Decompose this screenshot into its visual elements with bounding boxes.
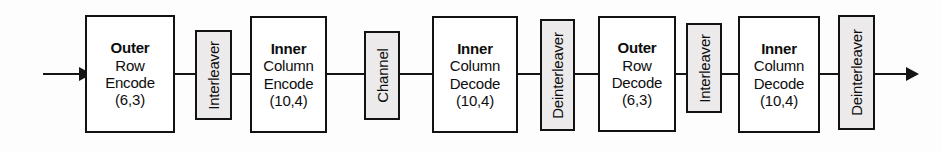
block-title: Inner — [271, 40, 307, 57]
wire-output — [875, 73, 909, 75]
block-label: Interleaver — [696, 34, 713, 103]
wire-1 — [174, 73, 197, 75]
block-code-params: (10,4) — [456, 92, 494, 109]
output-arrow-icon — [906, 67, 919, 81]
block-outer-row-decode[interactable]: Outer Row Decode (6,3) — [598, 16, 676, 132]
wire-5 — [517, 73, 541, 75]
block-line-3: Decode — [612, 74, 663, 91]
block-line-3: Encode — [105, 74, 155, 91]
block-code-params: (10,4) — [760, 92, 798, 109]
block-line-2: Column — [754, 57, 805, 74]
block-label: Deinterleaver — [549, 32, 566, 119]
wire-9 — [819, 73, 839, 75]
block-title: Outer — [617, 39, 656, 56]
wire-8 — [721, 73, 739, 75]
wire-2 — [231, 73, 252, 75]
block-line-2: Row — [622, 57, 651, 74]
block-line-3: Encode — [264, 75, 314, 92]
block-inner-column-encode[interactable]: Inner Column Encode (10,4) — [250, 16, 327, 133]
block-label: Interleaver — [205, 41, 222, 110]
block-code-params: (6,3) — [622, 91, 652, 108]
block-line-2: Column — [263, 57, 314, 74]
block-label: Channel — [374, 48, 391, 102]
block-interleaver-1[interactable]: Interleaver — [195, 30, 232, 120]
wire-6 — [574, 73, 599, 75]
wire-4 — [399, 73, 433, 75]
block-channel[interactable]: Channel — [364, 31, 400, 120]
block-deinterleaver-2[interactable]: Deinterleaver — [838, 15, 875, 130]
block-line-2: Column — [450, 57, 501, 74]
block-line-3: Decode — [450, 75, 501, 92]
block-inner-column-decode-1[interactable]: Inner Column Decode (10,4) — [432, 16, 518, 133]
block-inner-column-decode-2[interactable]: Inner Column Decode (10,4) — [738, 16, 820, 133]
block-code-params: (6,3) — [115, 91, 145, 108]
block-line-2: Row — [115, 57, 144, 74]
block-interleaver-2[interactable]: Interleaver — [686, 23, 722, 113]
block-code-params: (10,4) — [270, 92, 308, 109]
block-title: Inner — [457, 40, 493, 57]
block-title: Outer — [110, 39, 149, 56]
block-outer-row-encode[interactable]: Outer Row Encode (6,3) — [85, 15, 175, 133]
block-label: Deinterleaver — [848, 29, 865, 116]
block-diagram: Outer Row Encode (6,3) Interleaver Inner… — [0, 0, 941, 152]
block-deinterleaver-1[interactable]: Deinterleaver — [540, 19, 575, 131]
block-title: Inner — [761, 40, 797, 57]
wire-3 — [326, 73, 365, 75]
block-line-3: Decode — [754, 75, 805, 92]
